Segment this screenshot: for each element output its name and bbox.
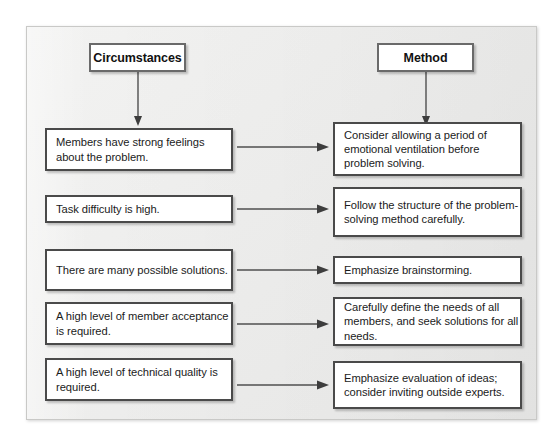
connector-arrow-row-4: [237, 318, 331, 330]
method-box-2: Follow the structure of the problem-solv…: [333, 187, 522, 237]
circumstance-box-3: There are many possible solutions.: [45, 249, 233, 291]
method-box-1-inner: Consider allowing a period of emotional …: [335, 124, 520, 174]
arrow-down-method: [419, 72, 433, 128]
column-header-method: Method: [377, 43, 474, 72]
diagram-frame: Circumstances Method Members have stro: [26, 26, 537, 420]
method-box-2-inner: Follow the structure of the problem-solv…: [335, 189, 520, 235]
arrow-down-circumstances: [131, 72, 145, 128]
method-label-5: Emphasize evaluation of ideas; consider …: [344, 371, 520, 399]
column-header-circumstances: Circumstances: [89, 43, 186, 72]
connector-arrow-row-2: [237, 203, 331, 215]
method-box-4: Carefully define the needs of all member…: [333, 297, 522, 346]
circumstance-box-5: A high level of technical quality is req…: [45, 358, 233, 401]
column-header-circumstances-inner: Circumstances: [91, 45, 184, 70]
circumstance-box-4-inner: A high level of member acceptance is req…: [47, 304, 231, 343]
circumstance-label-2: Task difficulty is high.: [56, 202, 160, 216]
circumstance-box-5-inner: A high level of technical quality is req…: [47, 360, 231, 399]
method-box-4-inner: Carefully define the needs of all member…: [335, 299, 520, 344]
circumstance-box-3-inner: There are many possible solutions.: [47, 251, 231, 289]
circumstance-label-4: A high level of member acceptance is req…: [56, 309, 231, 337]
method-box-3-inner: Emphasize brainstorming.: [335, 258, 520, 282]
method-box-3: Emphasize brainstorming.: [333, 256, 522, 284]
column-header-method-inner: Method: [379, 45, 472, 70]
method-box-1: Consider allowing a period of emotional …: [333, 122, 522, 176]
circumstance-box-1-inner: Members have strong feelings about the p…: [47, 130, 231, 169]
method-box-5-inner: Emphasize evaluation of ideas; consider …: [335, 363, 520, 407]
circumstance-label-3: There are many possible solutions.: [56, 263, 228, 277]
connector-arrow-row-1: [237, 141, 331, 153]
method-box-5: Emphasize evaluation of ideas; consider …: [333, 361, 522, 409]
circumstance-label-1: Members have strong feelings about the p…: [56, 135, 231, 163]
method-label-3: Emphasize brainstorming.: [344, 263, 472, 277]
circumstance-label-5: A high level of technical quality is req…: [56, 365, 231, 393]
circumstance-box-2-inner: Task difficulty is high.: [47, 197, 231, 221]
circumstance-box-1: Members have strong feelings about the p…: [45, 128, 233, 171]
connector-arrow-row-5: [237, 379, 331, 391]
column-header-circumstances-label: Circumstances: [93, 51, 181, 65]
method-label-2: Follow the structure of the problem-solv…: [344, 198, 520, 226]
circumstance-box-4: A high level of member acceptance is req…: [45, 302, 233, 345]
method-label-1: Consider allowing a period of emotional …: [344, 128, 520, 171]
column-header-method-label: Method: [404, 51, 448, 65]
diagram-page: Circumstances Method Members have stro: [0, 0, 560, 446]
method-label-4: Carefully define the needs of all member…: [344, 300, 520, 343]
connector-arrow-row-3: [237, 264, 331, 276]
circumstance-box-2: Task difficulty is high.: [45, 195, 233, 223]
